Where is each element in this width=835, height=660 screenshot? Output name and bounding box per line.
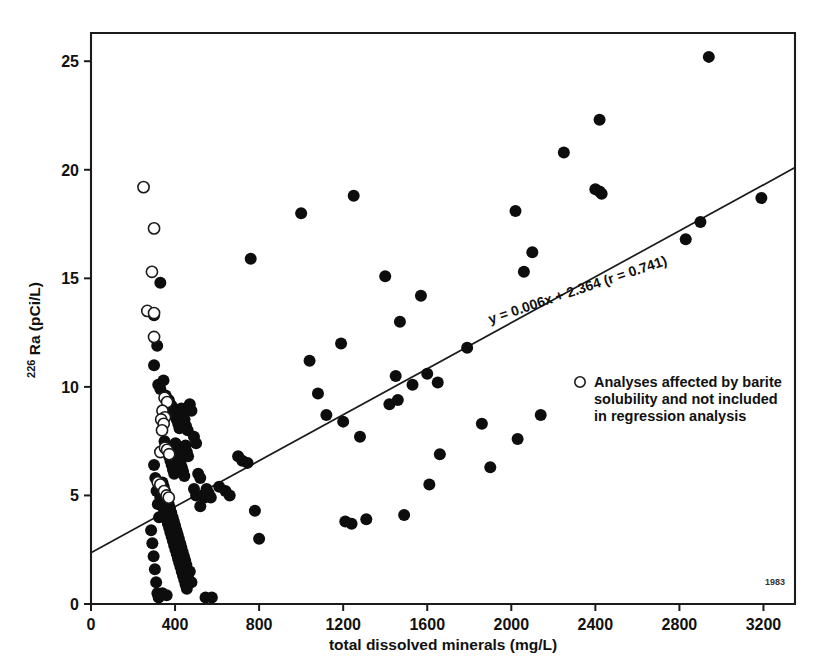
data-point — [512, 433, 524, 445]
data-point — [185, 405, 197, 417]
legend: Analyses affected by barite solubility a… — [575, 374, 782, 424]
data-point — [154, 277, 166, 289]
data-point — [224, 489, 236, 501]
y-axis: 0510152025 — [61, 53, 91, 613]
data-point — [379, 270, 391, 282]
data-series-included — [145, 51, 767, 604]
data-point — [596, 188, 608, 200]
data-point — [335, 337, 347, 349]
data-point — [150, 576, 162, 588]
data-point — [184, 565, 196, 577]
legend-line-3: in regression analysis — [594, 408, 746, 424]
x-tick-label: 800 — [246, 616, 273, 633]
data-point — [337, 416, 349, 428]
data-point — [178, 470, 190, 482]
data-point — [392, 394, 404, 406]
scatter-plot-figure: 0510152025 04008001200160020002400280032… — [0, 0, 835, 660]
data-point — [518, 266, 530, 278]
y-tick-label: 10 — [61, 379, 79, 396]
data-point — [526, 246, 538, 258]
data-point — [407, 379, 419, 391]
data-point — [510, 205, 522, 217]
data-point — [434, 448, 446, 460]
data-point — [390, 370, 402, 382]
data-point — [138, 182, 149, 193]
data-point — [158, 374, 170, 386]
data-point — [190, 489, 202, 501]
x-tick-label: 1600 — [409, 616, 445, 633]
data-point — [148, 459, 160, 471]
legend-open-circle-icon — [575, 377, 585, 387]
data-point — [148, 359, 160, 371]
scatter-plot-canvas: 0510152025 04008001200160020002400280032… — [0, 0, 835, 660]
regression-equation-label: y = 0.006x + 2.364 (r = 0.741) — [486, 252, 669, 327]
data-point — [346, 518, 358, 530]
data-point — [152, 498, 164, 510]
x-tick-label: 2800 — [662, 616, 698, 633]
y-tick-label: 25 — [61, 53, 79, 70]
data-point — [312, 387, 324, 399]
y-tick-label: 20 — [61, 162, 79, 179]
y-tick-label: 5 — [70, 487, 79, 504]
data-point — [253, 533, 265, 545]
data-point — [295, 207, 307, 219]
data-point — [755, 192, 767, 204]
x-tick-label: 0 — [87, 616, 96, 633]
plot-frame — [91, 33, 795, 604]
data-point — [594, 114, 606, 126]
data-point — [148, 550, 160, 562]
data-point — [149, 563, 161, 575]
data-point — [415, 290, 427, 302]
x-axis: 0400800120016002000240028003200 — [87, 604, 782, 633]
data-point — [206, 591, 218, 603]
data-point — [148, 223, 159, 234]
x-tick-label: 3200 — [746, 616, 782, 633]
data-point — [432, 377, 444, 389]
data-point — [153, 511, 165, 523]
axis-titles: 226 Ra (pCi/L) total dissolved minerals … — [25, 282, 557, 653]
x-tick-label: 1200 — [325, 616, 361, 633]
data-point — [194, 500, 206, 512]
data-point — [161, 589, 173, 601]
data-point — [205, 492, 217, 504]
data-point — [703, 51, 715, 63]
legend-line-1: Analyses affected by barite — [594, 374, 782, 390]
data-point — [304, 355, 316, 367]
data-series-excluded — [138, 182, 175, 504]
data-point — [476, 418, 488, 430]
data-point — [461, 342, 473, 354]
data-point — [182, 450, 194, 462]
x-tick-label: 2000 — [494, 616, 530, 633]
data-point — [360, 513, 372, 525]
data-point — [535, 409, 547, 421]
data-point — [245, 253, 257, 265]
data-point — [320, 409, 332, 421]
data-point — [156, 425, 167, 436]
data-point — [185, 576, 197, 588]
data-point — [190, 437, 202, 449]
data-point — [242, 457, 254, 469]
data-point — [146, 266, 157, 277]
data-point — [354, 431, 366, 443]
data-point — [194, 472, 206, 484]
data-point — [148, 307, 159, 318]
data-point — [421, 368, 433, 380]
data-point — [680, 233, 692, 245]
y-axis-title: 226 Ra (pCi/L) — [25, 282, 43, 378]
data-point — [348, 190, 360, 202]
x-axis-title: total dissolved minerals (mg/L) — [329, 636, 557, 653]
data-point — [146, 537, 158, 549]
x-tick-label: 2400 — [578, 616, 614, 633]
data-point — [423, 479, 435, 491]
x-tick-label: 400 — [162, 616, 189, 633]
data-point — [163, 492, 174, 503]
legend-line-2: solubility and not included — [594, 391, 778, 407]
data-point — [249, 505, 261, 517]
frame-border — [91, 33, 795, 604]
data-point — [558, 146, 570, 158]
data-point — [164, 449, 175, 460]
year-stamp: 1983 — [765, 577, 785, 587]
data-point — [148, 331, 159, 342]
data-point — [145, 524, 157, 536]
data-point — [398, 509, 410, 521]
